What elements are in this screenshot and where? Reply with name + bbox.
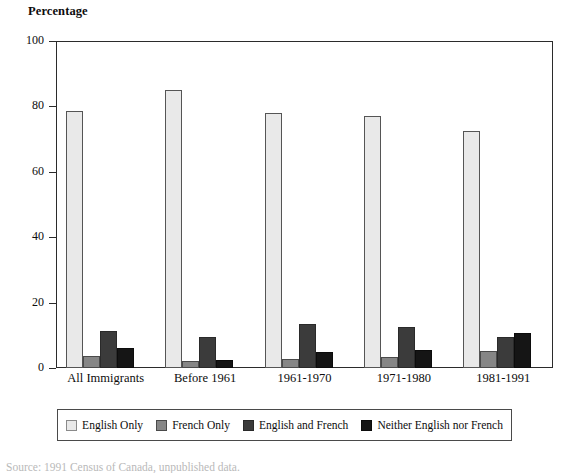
y-axis-tick-mark [49,106,56,107]
bar [265,113,282,368]
y-axis-tick-label: 0 [38,360,44,375]
source-note: Source: 1991 Census of Canada, unpublish… [6,461,240,473]
y-axis-title: Percentage [28,4,88,19]
bar [514,333,531,368]
y-axis-tick-label: 80 [32,98,44,113]
bar-group [66,41,134,368]
x-axis-label: 1981-1991 [454,371,553,386]
bar [182,361,199,368]
bar [117,348,134,368]
bar-group [265,41,333,368]
bar [299,324,316,368]
bar [165,90,182,368]
legend-swatch [66,420,77,431]
bar [66,111,83,368]
y-axis-tick-label: 40 [32,229,44,244]
x-axis-labels: All ImmigrantsBefore 19611961-19701971-1… [56,371,553,391]
bar-group [165,41,233,368]
x-axis-label: 1961-1970 [255,371,354,386]
legend-item: French Only [156,419,230,431]
y-axis-tick-mark [49,41,56,42]
bar [415,350,432,368]
x-axis-label: 1971-1980 [354,371,453,386]
y-axis-tick-label: 20 [32,295,44,310]
bar [199,337,216,368]
legend-label: Neither English nor French [377,419,503,431]
legend-label: English and French [259,419,348,431]
legend-label: English Only [82,419,143,431]
bar [398,327,415,368]
legend-item: English Only [66,419,143,431]
bar [463,131,480,368]
legend-item: Neither English nor French [361,419,503,431]
legend-swatch [361,420,372,431]
chart-legend: English OnlyFrench OnlyEnglish and Frenc… [57,409,512,441]
bar [381,357,398,368]
bar [480,351,497,368]
legend-item: English and French [243,419,348,431]
y-axis-tick-mark [49,172,56,173]
bar-group [364,41,432,368]
y-axis-tick-mark [49,237,56,238]
y-axis-tick-label: 100 [26,33,44,48]
x-axis-label: All Immigrants [56,371,155,386]
bar [364,116,381,368]
bar [282,359,299,368]
y-axis-tick-label: 60 [32,164,44,179]
legend-swatch [243,420,254,431]
bar [497,337,514,368]
bar [83,356,100,368]
legend-swatch [156,420,167,431]
x-axis-label: Before 1961 [155,371,254,386]
bar-group [463,41,531,368]
y-axis-tick-mark [49,303,56,304]
bar [216,360,233,369]
y-axis-tick-mark [49,368,56,369]
bar [316,352,333,368]
bar [100,331,117,368]
legend-label: French Only [172,419,230,431]
bars-layer [56,41,553,368]
